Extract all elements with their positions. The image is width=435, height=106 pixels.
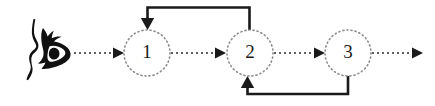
node-3[interactable]: 3	[325, 30, 371, 76]
feedback-edge-node-2-to-node-1	[141, 8, 250, 32]
flow-diagram: 1 2 3	[0, 0, 435, 106]
node-1[interactable]: 1	[124, 30, 170, 76]
node-3-label: 3	[343, 41, 353, 62]
feedback-edge-node-3-to-node-2	[241, 75, 348, 94]
edge-node-3-to-output	[372, 48, 423, 59]
diagram-canvas: 1 2 3	[0, 0, 435, 106]
edge-node-2-to-node-3	[274, 48, 325, 59]
node-1-label: 1	[142, 41, 152, 62]
edge-observer-to-node-1	[74, 48, 124, 59]
node-2[interactable]: 2	[227, 30, 273, 76]
node-2-label: 2	[245, 41, 255, 62]
edge-node-1-to-node-2	[171, 48, 226, 59]
eye-profile-icon	[26, 19, 70, 80]
